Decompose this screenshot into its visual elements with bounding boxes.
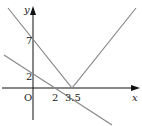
x-axis-arrow-icon [131, 85, 140, 91]
y-tick-2: 2 [26, 71, 32, 82]
linear-graph [4, 55, 112, 125]
x-tick-3-5: 3.5 [65, 92, 81, 103]
coordinate-plane: y x O 7 2 2 3.5 [0, 0, 142, 126]
origin-label: O [24, 92, 32, 103]
y-axis-label: y [23, 4, 30, 15]
x-axis-label: x [132, 92, 138, 103]
y-axis-arrow-icon [30, 6, 36, 15]
x-tick-2: 2 [52, 92, 58, 103]
y-tick-7: 7 [26, 35, 32, 46]
